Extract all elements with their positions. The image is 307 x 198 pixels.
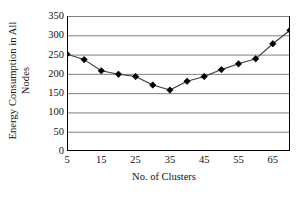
data-point <box>115 71 121 77</box>
x-tick-label: 15 <box>96 154 107 166</box>
gridlines <box>67 17 290 133</box>
data-point <box>150 82 156 88</box>
x-tick-label: 45 <box>199 154 210 166</box>
data-point <box>235 61 241 67</box>
data-point <box>184 78 190 84</box>
y-axis-title: Energy Consumption in All Nodes <box>0 0 38 160</box>
y-tick-label: 150 <box>38 88 64 99</box>
x-tick-label: 25 <box>130 154 141 166</box>
y-axis-title-line-1: Energy Consumption in All <box>7 21 20 139</box>
x-axis-tick-labels: 5152535455565 <box>67 154 290 168</box>
chart-canvas <box>67 16 290 151</box>
data-point <box>67 51 70 57</box>
y-tick-label: 100 <box>38 107 64 118</box>
x-axis-title: No. of Clusters <box>38 171 290 183</box>
y-axis-title-line-2: Nodes <box>19 21 32 139</box>
y-tick-label: 200 <box>38 69 64 80</box>
x-tick-label: 35 <box>165 154 176 166</box>
y-tick-label: 250 <box>38 49 64 60</box>
data-point <box>218 66 224 72</box>
data-series-markers <box>67 27 290 93</box>
data-point <box>81 56 87 62</box>
data-point <box>167 87 173 93</box>
y-tick-label: 300 <box>38 30 64 41</box>
chart-figure: Energy Consumption in All Nodes 05010015… <box>0 0 307 198</box>
plot-area <box>67 16 290 151</box>
x-tick-label: 5 <box>64 154 69 166</box>
data-point <box>98 68 104 74</box>
y-axis-tick-labels: 050100150200250300350 <box>38 11 64 151</box>
y-tick-label: 0 <box>38 146 64 157</box>
y-tick-label: 50 <box>38 126 64 137</box>
y-tick-label: 350 <box>38 11 64 22</box>
x-tick-label: 65 <box>268 154 279 166</box>
x-tick-label: 55 <box>233 154 244 166</box>
